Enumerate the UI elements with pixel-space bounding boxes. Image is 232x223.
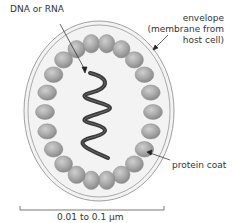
label-dna-or-rna: DNA or RNA	[10, 4, 64, 14]
label-envelope: envelope	[183, 13, 224, 23]
virus-diagram: DNA or RNA envelope (membrane from host …	[0, 0, 232, 223]
label-protein-coat: protein coat	[172, 160, 226, 170]
protein-subunit	[99, 171, 115, 189]
protein-subunit	[125, 52, 143, 68]
protein-subunit	[38, 124, 57, 139]
protein-subunit	[144, 105, 163, 120]
protein-subunit	[141, 124, 160, 139]
protein-subunit	[36, 105, 55, 120]
label-envelope-host-cell: host cell)	[183, 35, 224, 45]
protein-subunit	[83, 35, 99, 53]
protein-subunit	[55, 156, 73, 172]
protein-subunit	[83, 171, 99, 189]
protein-subunit	[113, 166, 130, 183]
protein-subunit	[44, 142, 63, 158]
label-envelope-membrane: (membrane from	[147, 24, 224, 34]
protein-subunit	[38, 85, 57, 100]
protein-subunit	[44, 67, 63, 83]
label-scale: 0.01 to 0.1 µm	[57, 212, 123, 222]
protein-subunit	[141, 85, 160, 100]
protein-subunit	[135, 67, 154, 83]
protein-subunit	[99, 35, 115, 53]
scale-bar	[20, 206, 164, 210]
